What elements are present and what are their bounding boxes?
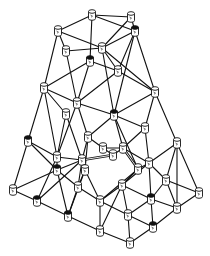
- database-node-icon: [89, 10, 96, 21]
- database-node-icon: [132, 26, 139, 37]
- database-node-icon: [119, 180, 126, 191]
- network-link: [44, 88, 77, 103]
- network-link: [68, 216, 100, 231]
- network-graph: [0, 0, 210, 256]
- network-link: [100, 231, 130, 243]
- database-node-icon: [196, 188, 203, 199]
- network-link: [149, 143, 177, 163]
- database-node-icon: [100, 143, 107, 154]
- database-node-icon: [163, 175, 170, 186]
- database-node-icon: [97, 226, 104, 237]
- database-node-icon: [34, 196, 41, 207]
- database-node-icon: [41, 83, 48, 94]
- database-node-icon: [82, 165, 89, 176]
- network-link: [90, 15, 92, 61]
- database-node-icon: [127, 238, 134, 249]
- database-node-icon: [54, 152, 61, 163]
- network-link: [155, 92, 177, 143]
- network-link: [66, 114, 82, 160]
- database-node-icon: [146, 158, 153, 169]
- database-node-icon: [148, 194, 155, 205]
- database-node-icon: [142, 123, 149, 134]
- network-link: [28, 88, 44, 141]
- database-node-icon: [75, 182, 82, 193]
- network-link: [77, 71, 118, 103]
- database-node-icon: [150, 222, 157, 233]
- network-link: [122, 185, 151, 199]
- network-link: [37, 157, 57, 201]
- database-node-icon: [174, 203, 181, 214]
- database-node-icon: [120, 143, 127, 154]
- database-node-icon: [63, 46, 70, 57]
- database-node-icon: [125, 210, 132, 221]
- database-node-icon: [97, 196, 104, 207]
- network-link: [77, 103, 114, 115]
- database-node-icon: [152, 87, 159, 98]
- network-link: [37, 201, 68, 216]
- network-link: [102, 17, 131, 48]
- database-node-icon: [128, 12, 135, 23]
- network-link: [44, 88, 57, 157]
- network-link: [58, 15, 92, 31]
- database-node-icon: [174, 138, 181, 149]
- network-diagram: [0, 0, 210, 256]
- network-link: [90, 61, 118, 71]
- network-link: [13, 170, 57, 190]
- database-node-icon: [87, 56, 94, 67]
- database-node-icon: [54, 165, 61, 176]
- database-node-icon: [111, 110, 118, 121]
- network-link: [66, 51, 77, 103]
- database-node-icon: [10, 185, 17, 196]
- network-link: [102, 31, 135, 48]
- database-node-icon: [74, 98, 81, 109]
- network-link: [102, 48, 155, 92]
- database-node-icon: [110, 150, 117, 161]
- database-node-icon: [115, 66, 122, 77]
- database-node-icon: [99, 43, 106, 54]
- network-link: [100, 201, 128, 215]
- database-node-icon: [85, 132, 92, 143]
- database-node-icon: [63, 109, 70, 120]
- network-link: [66, 48, 102, 51]
- database-node-icon: [135, 164, 142, 175]
- network-link: [114, 92, 155, 115]
- database-node-icon: [65, 211, 72, 222]
- database-node-icon: [55, 26, 62, 37]
- network-link: [44, 31, 58, 88]
- edge-layer: [13, 15, 199, 243]
- database-node-icon: [25, 136, 32, 147]
- database-node-icon: [79, 155, 86, 166]
- network-link: [13, 141, 28, 190]
- network-link: [28, 141, 57, 157]
